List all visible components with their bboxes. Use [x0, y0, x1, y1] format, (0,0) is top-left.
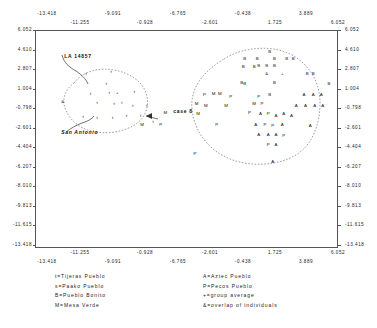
y-tick-label: -6.207 [0, 164, 32, 169]
data-point: A [321, 103, 324, 107]
data-point: A [295, 103, 298, 107]
data-point: t [112, 116, 113, 120]
x-tick-label: 3.889 [290, 259, 322, 264]
data-point: B [327, 82, 330, 86]
y-tick-mark [33, 186, 36, 187]
y-tick-label: 2.807 [0, 66, 32, 71]
data-point: P [257, 94, 260, 98]
x-tick-label: 6.052 [322, 250, 354, 255]
x-tick-label: -11.255 [64, 250, 96, 255]
data-point: + [116, 91, 119, 95]
plot-annotation-label: case 8 [173, 108, 193, 114]
y-tick-mark [338, 225, 341, 226]
data-point: A [303, 93, 306, 97]
x-tick-label: -0.928 [129, 20, 161, 25]
data-point: t [109, 91, 110, 95]
x-tick-label: -9.091 [97, 259, 129, 264]
y-tick-label: -6.207 [345, 164, 377, 169]
x-tick-label: 1.725 [259, 250, 291, 255]
data-point: A [274, 132, 277, 136]
y-tick-label: -0.798 [345, 105, 377, 110]
y-tick-mark [338, 186, 341, 187]
legend-item: &=overlap of individuals [203, 301, 278, 311]
plot-annotation-label: LA 14857 [64, 53, 91, 59]
data-point: A [267, 132, 270, 136]
x-tick-label: -11.255 [64, 20, 96, 25]
y-tick-mark [338, 128, 341, 129]
y-tick-mark [338, 206, 341, 207]
y-tick-mark [33, 128, 36, 129]
y-tick-label: -2.601 [0, 125, 32, 130]
x-tick-label: -0.438 [227, 11, 259, 16]
data-point: t [132, 103, 133, 107]
data-point: t [106, 82, 107, 86]
data-point: P [260, 102, 263, 106]
data-point: B [268, 49, 271, 53]
data-point: M [164, 111, 168, 115]
data-point: A [254, 122, 257, 126]
data-point: A [304, 103, 307, 107]
y-tick-mark [338, 245, 341, 246]
data-point: A [312, 93, 315, 97]
data-point: t [126, 113, 127, 117]
y-tick-mark [33, 89, 36, 90]
cluster-outline-right [36, 31, 337, 247]
x-tick-label: -13.418 [31, 259, 63, 264]
data-point: M [140, 122, 144, 126]
data-point: A [274, 113, 277, 117]
scatter-plot-figure: -13.418-9.091-6.765-0.4383.889 -11.255-0… [0, 0, 377, 328]
data-point: + [281, 72, 284, 76]
data-point: t [82, 114, 83, 118]
data-point: B [312, 72, 315, 76]
y-tick-mark [33, 167, 36, 168]
data-point: A [309, 123, 312, 127]
y-tick-mark [338, 167, 341, 168]
y-tick-label: -11.615 [345, 222, 377, 227]
data-point: M [195, 102, 199, 106]
data-point: P [215, 122, 218, 126]
data-point: P [267, 142, 270, 146]
y-tick-mark [33, 69, 36, 70]
data-point: t [85, 72, 86, 76]
data-point: P [203, 93, 206, 97]
data-point: A [257, 132, 260, 136]
x-tick-label: -2.601 [194, 250, 226, 255]
data-point: B [243, 56, 246, 60]
plot-frame: ttttt+t&tttttttttttBBBBBBBBBBB&+BBBBBBMM… [35, 30, 338, 248]
data-point: A [313, 103, 316, 107]
y-tick-label: -13.418 [0, 242, 32, 247]
y-tick-mark [338, 69, 341, 70]
x-tick-label: -6.765 [162, 11, 194, 16]
data-point: B [268, 93, 271, 97]
data-point: B [292, 56, 295, 60]
legend-item: t=Tijeras Pueblo [55, 272, 106, 282]
x-tick-label: -0.928 [129, 250, 161, 255]
data-point: A [271, 159, 274, 163]
y-tick-label: -4.404 [0, 144, 32, 149]
legend: t=Tijeras Pueblos=Paako PuebloB=Pueblo B… [35, 272, 338, 320]
y-tick-label: -9.813 [345, 203, 377, 208]
data-point: & [61, 100, 64, 104]
y-tick-mark [338, 50, 341, 51]
data-point: P [159, 122, 162, 126]
data-point: P [264, 122, 267, 126]
data-point: B [265, 64, 268, 68]
data-point: B [285, 56, 288, 60]
data-point: A [259, 112, 262, 116]
data-point: B [243, 82, 246, 86]
data-point: A [320, 93, 323, 97]
y-tick-mark [33, 206, 36, 207]
y-tick-mark [33, 108, 36, 109]
y-tick-mark [338, 30, 341, 31]
x-tick-label: -13.418 [31, 11, 63, 16]
x-tick-label: -9.091 [97, 11, 129, 16]
data-point: t [121, 101, 122, 105]
y-tick-label: 4.610 [345, 47, 377, 52]
y-tick-label: -0.798 [0, 105, 32, 110]
y-tick-label: 6.052 [345, 27, 377, 32]
cluster-outline-left [36, 31, 337, 247]
legend-column-left: t=Tijeras Pueblos=Paako PuebloB=Pueblo B… [55, 272, 106, 310]
legend-item: B=Pueblo Bonito [55, 291, 106, 301]
y-tick-label: -8.010 [0, 183, 32, 188]
x-tick-label: 3.889 [290, 11, 322, 16]
